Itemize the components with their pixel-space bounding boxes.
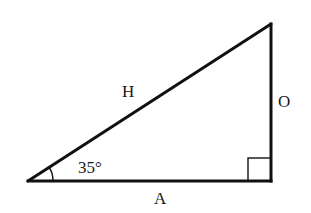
triangle [28, 24, 271, 181]
right-triangle-diagram: H O A 35° [0, 0, 311, 213]
hypotenuse-side [28, 24, 271, 181]
angle-label: 35° [78, 158, 102, 177]
adjacent-label: A [154, 189, 167, 208]
hypotenuse-label: H [122, 82, 134, 101]
angle-arc [49, 167, 53, 181]
right-angle-marker [248, 158, 271, 181]
opposite-label: O [278, 92, 290, 111]
